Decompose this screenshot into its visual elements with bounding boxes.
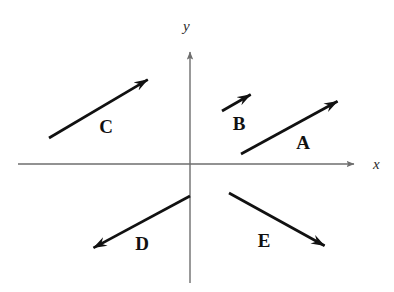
- x-axis-label: x: [373, 157, 380, 172]
- vector-arrow-e: [229, 193, 325, 246]
- y-axis-label: y: [183, 19, 190, 34]
- axes-group: [18, 52, 354, 283]
- vector-label-d: D: [135, 234, 149, 253]
- vector-diagram-figure: x y A B C D E: [0, 0, 394, 292]
- vector-arrow-b: [222, 94, 251, 111]
- vector-label-b: B: [233, 114, 246, 133]
- vector-label-c: C: [99, 117, 113, 136]
- vector-arrow-a: [241, 101, 338, 154]
- vector-label-e: E: [258, 231, 271, 250]
- diagram-canvas: [0, 0, 394, 292]
- vector-label-a: A: [296, 133, 310, 152]
